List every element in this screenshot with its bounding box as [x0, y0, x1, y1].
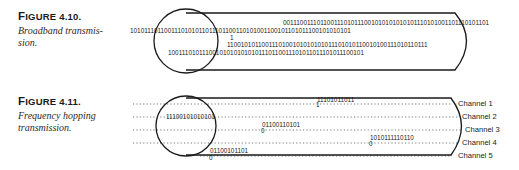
- hop-marker: 0: [369, 140, 373, 147]
- channel-label: Channel 3: [465, 125, 500, 134]
- bit-row: 1001110101110010101010101011101100111010…: [168, 49, 364, 56]
- bit-row: 1100101011001110100101010101011101010110…: [227, 41, 428, 48]
- bit-row: 0011100111011001110101110010101010101011…: [283, 19, 490, 26]
- channel-label: Channel 4: [462, 138, 497, 147]
- cable-cross-section: [154, 9, 218, 73]
- frequency-hopping-diagram: 11101011011 1 11100101010101 01100110101…: [133, 96, 500, 161]
- hop-marker: 1: [316, 101, 320, 108]
- bit-row: 1: [230, 34, 234, 41]
- hop-bits-channel-2: 11100101010101: [166, 113, 215, 120]
- hop-bits-channel-3: 01100110101: [262, 121, 301, 128]
- channel-lines: [133, 104, 461, 156]
- hop-bits-channel-4: 1010111110110: [370, 134, 414, 141]
- hop-bits-channel-5: 01100101101: [210, 147, 249, 154]
- hop-marker: 0: [261, 127, 265, 134]
- hop-bits-channel-1: 11101011011: [317, 96, 355, 103]
- hop-marker: 0: [209, 154, 213, 161]
- diagrams-canvas: 0011100111011001110101110010101010101011…: [0, 0, 519, 170]
- cable-cross-section: [156, 96, 216, 156]
- broadband-diagram: 0011100111011001110101110010101010101011…: [130, 9, 490, 73]
- channel-label: Channel 5: [458, 151, 493, 160]
- channel-label: Channel 1: [458, 99, 493, 108]
- channel-label: Channel 2: [462, 112, 497, 121]
- bit-row: 1010111011001110101011011101100110101001…: [130, 27, 351, 34]
